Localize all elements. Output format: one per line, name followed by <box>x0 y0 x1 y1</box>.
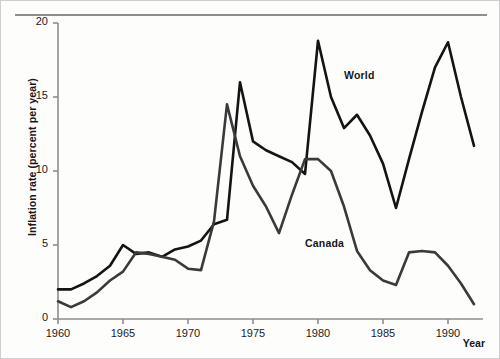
series-line-canada <box>58 104 474 307</box>
line-chart-plot <box>1 1 500 359</box>
data-series-group <box>58 41 474 307</box>
x-axis-tick-label: 1985 <box>363 327 403 339</box>
y-axis-tick-label: 20 <box>22 15 48 27</box>
series-label-world: World <box>344 69 375 81</box>
axes <box>58 23 483 319</box>
y-axis-tick-label: 10 <box>22 163 48 175</box>
x-axis-tick-label: 1960 <box>38 327 78 339</box>
x-axis-tick-label: 1990 <box>428 327 468 339</box>
y-axis-tick-label: 15 <box>22 89 48 101</box>
chart-figure: Inflation rate (percent per year) Year W… <box>0 0 500 359</box>
series-label-canada: Canada <box>305 237 344 249</box>
x-axis-tick-label: 1980 <box>298 327 338 339</box>
x-axis-tick-label: 1965 <box>103 327 143 339</box>
y-axis-tick-label: 5 <box>22 237 48 249</box>
y-axis-tick-label: 0 <box>22 311 48 323</box>
x-axis-tick-label: 1970 <box>168 327 208 339</box>
x-axis-tick-label: 1975 <box>233 327 273 339</box>
